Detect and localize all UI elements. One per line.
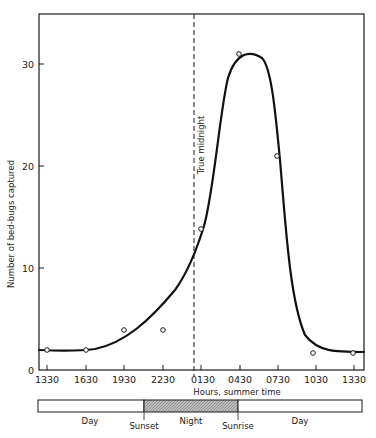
night-label: Night (180, 416, 204, 426)
point-1330-end (351, 351, 356, 356)
y-tick-30: 30 (22, 59, 34, 70)
x-tick-0130: 0130 (191, 374, 215, 385)
y-tick-20: 20 (22, 161, 34, 172)
point-1330 (45, 348, 50, 353)
x-tick-0730: 0730 (266, 374, 290, 385)
day-label-1: Day (82, 416, 99, 426)
x-axis-title: Hours, summer time (193, 387, 280, 397)
x-tick-1630: 1630 (74, 374, 98, 385)
x-tick-1330-start: 1330 (35, 374, 59, 385)
sunrise-label: Sunrise (222, 421, 254, 431)
sunset-label: Sunset (129, 421, 159, 431)
y-axis-title: Number of bed-bugs captured (6, 160, 16, 288)
point-0130 (199, 227, 204, 232)
x-tick-1030: 1030 (304, 374, 328, 385)
x-tick-0430: 0430 (228, 374, 252, 385)
point-1930 (122, 328, 127, 333)
point-1630 (84, 348, 89, 353)
point-2230 (161, 328, 166, 333)
day-segment-1 (38, 400, 144, 412)
x-tick-1930: 1930 (112, 374, 136, 385)
x-tick-2230: 2230 (151, 374, 175, 385)
day-label-2: Day (292, 416, 309, 426)
bed-bug-capture-chart: 0 10 20 30 Number of bed-bugs captured 1… (0, 0, 376, 438)
night-segment (144, 400, 238, 412)
y-tick-10: 10 (22, 263, 34, 274)
point-0730 (275, 154, 280, 159)
y-axis: 0 10 20 30 Number of bed-bugs captured (6, 59, 44, 376)
fitted-curve (39, 54, 364, 352)
y-tick-0: 0 (28, 365, 34, 376)
x-tick-1330-end: 1330 (342, 374, 366, 385)
day-segment-2 (238, 400, 362, 412)
point-0430 (237, 52, 242, 57)
point-1030 (311, 351, 316, 356)
plot-frame (39, 14, 364, 370)
data-points (45, 52, 356, 356)
day-night-bar: Day Night Day Sunset Sunrise (38, 400, 362, 431)
true-midnight-label: True midnight (196, 115, 206, 175)
